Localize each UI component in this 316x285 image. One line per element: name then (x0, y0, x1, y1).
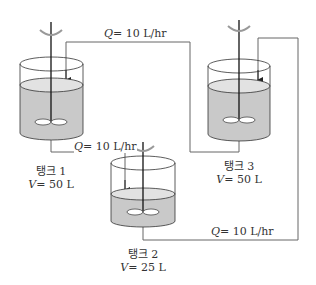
tank-name: 탱크 2 (120, 248, 165, 261)
tank-1 (20, 22, 83, 140)
tank-name: 탱크 3 (216, 160, 261, 173)
tank-2-label: 탱크 2 V= 25 L (120, 248, 165, 274)
flow-label-3: Q= 10 L/hr (211, 225, 274, 238)
tank-3-label: 탱크 3 V= 50 L (216, 160, 261, 186)
flow-label-2: Q= 10 L/hr (74, 140, 137, 153)
tank-1-label: 탱크 1 V= 50 L (28, 165, 73, 191)
flow-label-1: Q= 10 L/hr (104, 27, 167, 40)
tank-2 (111, 142, 175, 227)
tank-diagram: Q= 10 L/hr Q= 10 L/hr Q= 10 L/hr 탱크 1 V=… (0, 0, 316, 285)
tank-name: 탱크 1 (28, 165, 73, 178)
diagram-graphics (0, 0, 316, 285)
